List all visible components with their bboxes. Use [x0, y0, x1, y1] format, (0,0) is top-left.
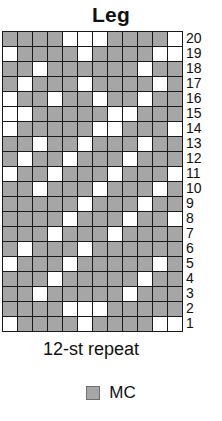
- mc-swatch-icon: [86, 386, 100, 400]
- stitch-cell: [18, 122, 33, 137]
- stitch-cell: [78, 152, 93, 167]
- stitch-cell: [153, 182, 168, 197]
- stitch-cell: [78, 122, 93, 137]
- stitch-cell: [48, 197, 63, 212]
- stitch-cell: [108, 32, 123, 47]
- stitch-cell: [138, 272, 153, 287]
- page-title: Leg: [0, 0, 222, 29]
- stitch-grid: [2, 31, 183, 332]
- stitch-cell: [78, 92, 93, 107]
- stitch-cell: [123, 167, 138, 182]
- stitch-cell: [138, 47, 153, 62]
- stitch-cell: [3, 92, 18, 107]
- row-number: 2: [186, 301, 202, 316]
- stitch-cell: [48, 272, 63, 287]
- stitch-cell: [153, 287, 168, 302]
- stitch-cell: [78, 32, 93, 47]
- stitch-cell: [153, 197, 168, 212]
- stitch-cell: [168, 107, 183, 122]
- stitch-cell: [78, 317, 93, 332]
- row-number: 4: [186, 271, 202, 286]
- stitch-cell: [33, 92, 48, 107]
- stitch-cell: [78, 272, 93, 287]
- stitch-cell: [138, 212, 153, 227]
- stitch-cell: [153, 317, 168, 332]
- stitch-cell: [138, 197, 153, 212]
- stitch-cell: [33, 62, 48, 77]
- stitch-cell: [153, 32, 168, 47]
- stitch-cell: [168, 62, 183, 77]
- stitch-cell: [63, 317, 78, 332]
- stitch-cell: [153, 302, 168, 317]
- stitch-cell: [93, 62, 108, 77]
- stitch-cell: [108, 92, 123, 107]
- stitch-cell: [168, 182, 183, 197]
- stitch-cell: [153, 47, 168, 62]
- stitch-cell: [93, 287, 108, 302]
- stitch-cell: [48, 77, 63, 92]
- stitch-cell: [93, 152, 108, 167]
- row-number: 17: [186, 76, 202, 91]
- row-number-axis: 2019181716151413121110987654321: [186, 31, 202, 331]
- stitch-cell: [168, 152, 183, 167]
- row-number: 19: [186, 46, 202, 61]
- stitch-cell: [123, 182, 138, 197]
- row-number: 10: [186, 181, 202, 196]
- stitch-cell: [138, 227, 153, 242]
- stitch-cell: [123, 122, 138, 137]
- stitch-cell: [123, 272, 138, 287]
- stitch-cell: [108, 317, 123, 332]
- stitch-cell: [123, 242, 138, 257]
- stitch-cell: [168, 227, 183, 242]
- stitch-cell: [33, 302, 48, 317]
- stitch-cell: [78, 77, 93, 92]
- stitch-cell: [108, 62, 123, 77]
- stitch-cell: [18, 32, 33, 47]
- stitch-cell: [153, 62, 168, 77]
- stitch-cell: [138, 77, 153, 92]
- stitch-cell: [93, 77, 108, 92]
- stitch-cell: [18, 287, 33, 302]
- row-number: 18: [186, 61, 202, 76]
- stitch-cell: [48, 182, 63, 197]
- stitch-cell: [3, 272, 18, 287]
- stitch-cell: [168, 257, 183, 272]
- stitch-cell: [123, 152, 138, 167]
- knitting-chart-page: Leg 2019181716151413121110987654321 12-s…: [0, 0, 222, 421]
- stitch-cell: [108, 242, 123, 257]
- stitch-cell: [3, 182, 18, 197]
- stitch-cell: [63, 137, 78, 152]
- stitch-cell: [18, 212, 33, 227]
- stitch-cell: [63, 122, 78, 137]
- stitch-cell: [48, 302, 63, 317]
- stitch-cell: [3, 197, 18, 212]
- stitch-cell: [63, 242, 78, 257]
- stitch-cell: [48, 152, 63, 167]
- stitch-cell: [153, 257, 168, 272]
- stitch-cell: [48, 287, 63, 302]
- stitch-cell: [33, 212, 48, 227]
- stitch-cell: [33, 152, 48, 167]
- stitch-cell: [78, 227, 93, 242]
- stitch-cell: [123, 197, 138, 212]
- stitch-cell: [78, 302, 93, 317]
- stitch-cell: [3, 212, 18, 227]
- stitch-cell: [123, 77, 138, 92]
- stitch-cell: [93, 227, 108, 242]
- stitch-cell: [108, 257, 123, 272]
- stitch-cell: [48, 32, 63, 47]
- stitch-cell: [33, 137, 48, 152]
- stitch-cell: [108, 272, 123, 287]
- row-number: 14: [186, 121, 202, 136]
- stitch-cell: [3, 122, 18, 137]
- row-number: 9: [186, 196, 202, 211]
- row-number: 20: [186, 31, 202, 46]
- row-number: 5: [186, 256, 202, 271]
- stitch-cell: [153, 272, 168, 287]
- stitch-cell: [48, 107, 63, 122]
- stitch-cell: [123, 92, 138, 107]
- stitch-cell: [78, 242, 93, 257]
- stitch-cell: [3, 77, 18, 92]
- stitch-cell: [48, 257, 63, 272]
- stitch-cell: [63, 152, 78, 167]
